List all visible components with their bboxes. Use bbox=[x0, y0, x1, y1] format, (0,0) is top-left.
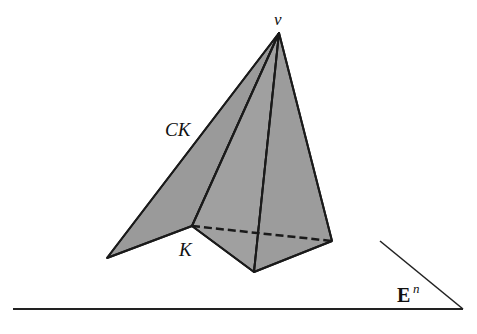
label-space-superscript-n: n bbox=[413, 281, 420, 296]
label-space-e: E bbox=[397, 284, 410, 306]
plane-slant-line bbox=[380, 241, 463, 309]
label-base-k: K bbox=[178, 239, 193, 260]
cone-diagram: v CK K E n bbox=[0, 0, 477, 334]
cone-ck bbox=[107, 33, 332, 272]
label-apex-v: v bbox=[274, 10, 282, 29]
label-cone-ck: CK bbox=[165, 119, 192, 140]
